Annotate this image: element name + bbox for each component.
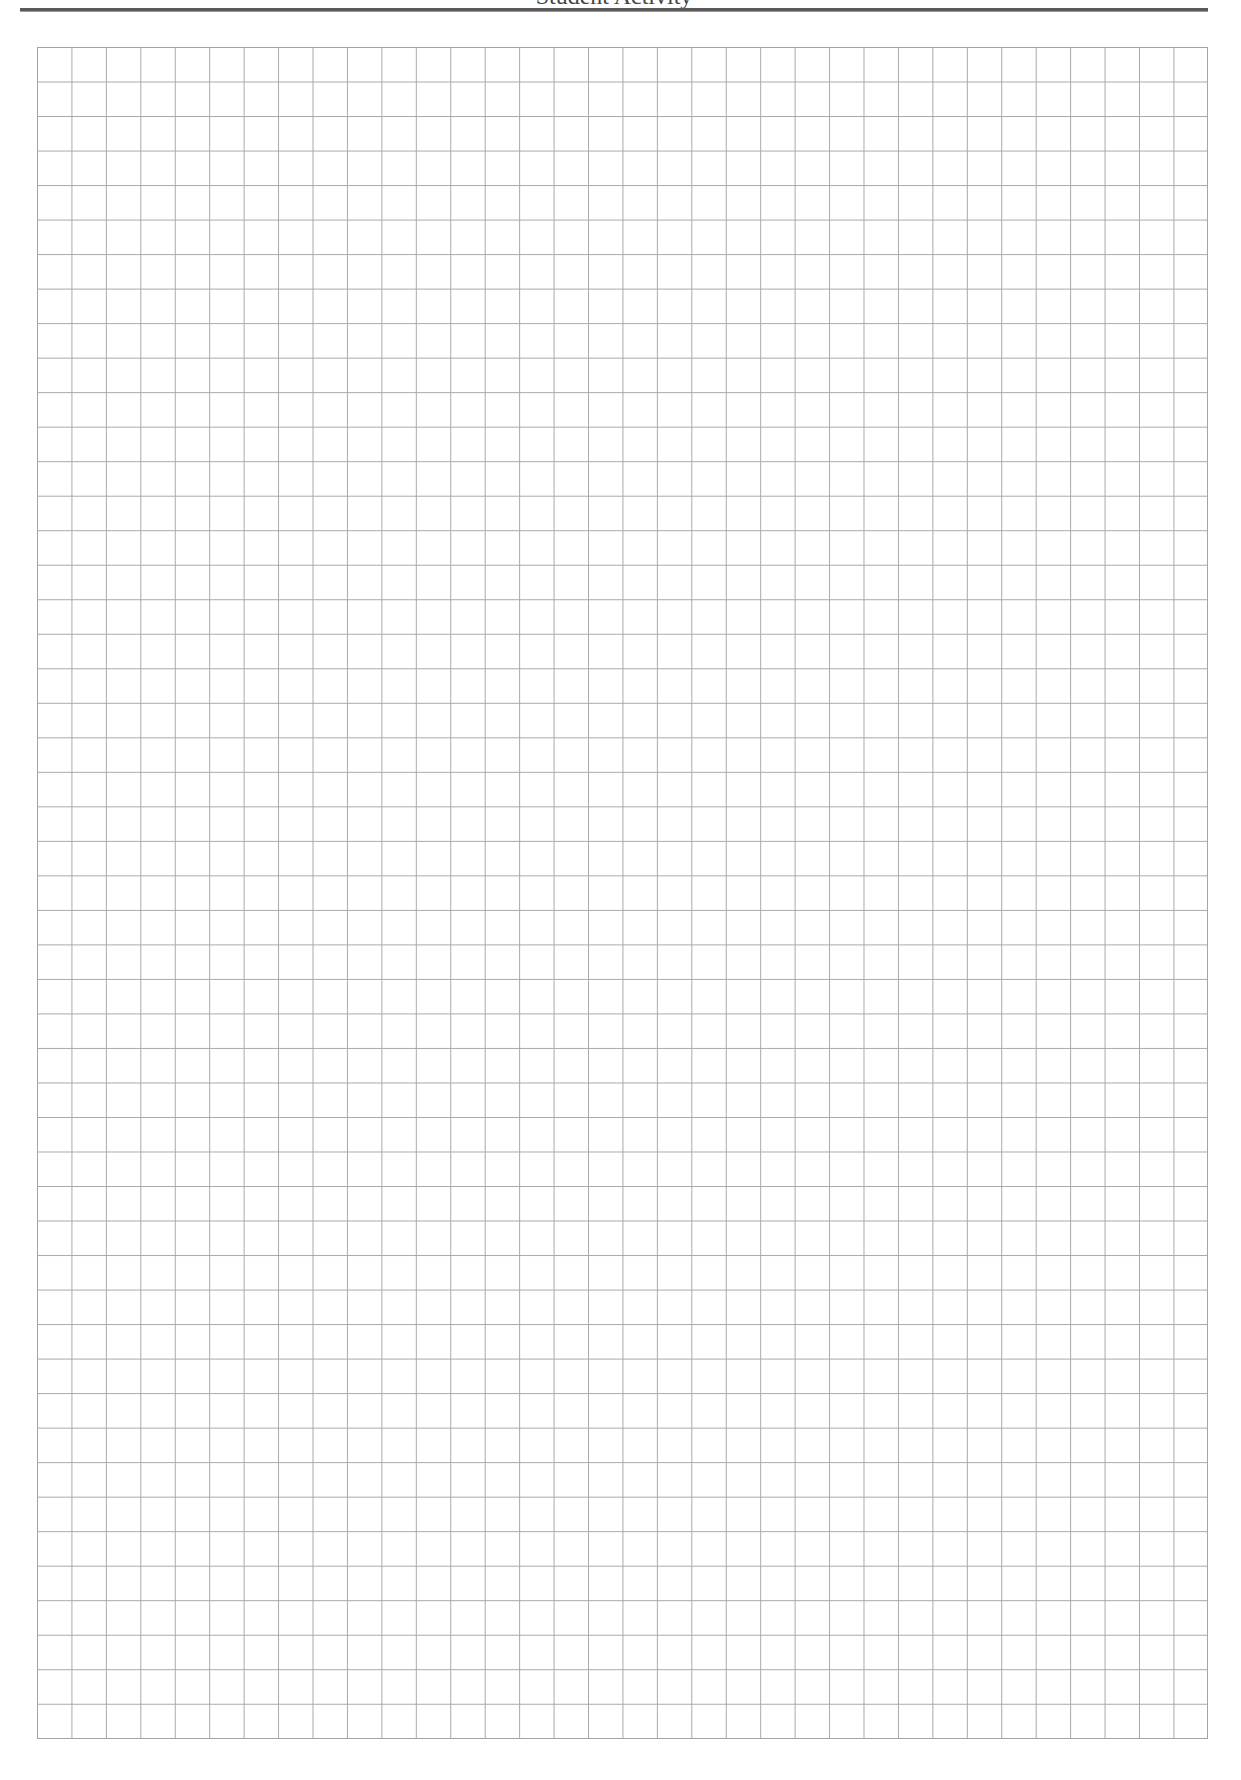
page-title: Student Activity: [20, 0, 1208, 8]
graph-paper-grid: [37, 47, 1208, 1739]
page-header: Student Activity: [20, 0, 1208, 12]
header-rule-divider: [20, 8, 1208, 12]
